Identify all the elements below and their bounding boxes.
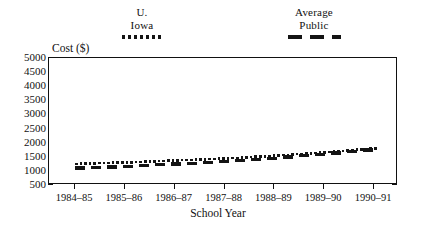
data-point-average-public — [235, 159, 245, 162]
x-axis-tick — [323, 184, 324, 189]
data-point-average-public — [91, 166, 101, 169]
y-axis-tick-labels: 500045004000350030002500200015001000500 — [4, 50, 46, 191]
y-axis-tick-label: 4000 — [24, 80, 46, 91]
data-point-u-iowa — [112, 161, 115, 164]
data-point-u-iowa — [153, 160, 156, 163]
y-axis-tick-label: 1500 — [24, 151, 46, 162]
x-axis-tick — [124, 184, 125, 189]
x-axis-tick-label: 1990–91 — [345, 192, 401, 203]
data-point-u-iowa — [323, 151, 326, 154]
legend-swatch-dashed-line — [266, 34, 362, 41]
data-point-u-iowa — [231, 157, 234, 160]
data-point-u-iowa — [181, 159, 184, 162]
legend-label-average-public-line2: Public — [266, 19, 362, 32]
x-axis-tick — [373, 184, 374, 189]
data-point-u-iowa — [126, 161, 129, 164]
x-axis-tick — [273, 184, 274, 189]
data-point-average-public — [363, 148, 373, 151]
chart-legend: U. Iowa Average Public — [0, 0, 436, 48]
x-axis-tick-labels: 1984–851985–861986–871987–881988–891989–… — [0, 192, 436, 206]
x-axis-tick-label: 1988–89 — [245, 192, 301, 203]
y-axis-title: Cost ($) — [52, 42, 89, 54]
series-u-iowa — [49, 58, 396, 183]
legend-item-average-public: Average Public — [266, 6, 362, 41]
data-point-u-iowa — [291, 153, 294, 156]
data-point-u-iowa — [351, 149, 354, 152]
data-point-u-iowa — [144, 160, 147, 163]
y-axis-tick-label: 2500 — [24, 123, 46, 134]
data-point-u-iowa — [305, 152, 308, 155]
series-average-public — [49, 58, 396, 183]
data-point-u-iowa — [121, 161, 124, 164]
data-point-u-iowa — [245, 156, 248, 159]
y-axis-tick-label: 3500 — [24, 94, 46, 105]
data-point-u-iowa — [89, 162, 92, 165]
data-point-average-public — [347, 150, 357, 153]
data-point-u-iowa — [273, 154, 276, 157]
data-point-average-public — [203, 161, 213, 164]
data-point-u-iowa — [190, 159, 193, 162]
y-axis-tick-label: 3000 — [24, 108, 46, 119]
data-point-u-iowa — [93, 162, 96, 165]
data-point-average-public — [171, 162, 181, 165]
data-point-u-iowa — [176, 159, 179, 162]
plot-area — [48, 57, 397, 184]
data-point-u-iowa — [356, 148, 359, 151]
legend-swatch-dotted-line — [96, 34, 188, 41]
data-point-u-iowa — [213, 158, 216, 161]
data-point-average-public — [299, 154, 309, 157]
data-point-u-iowa — [204, 158, 207, 161]
data-point-u-iowa — [98, 162, 101, 165]
data-point-average-public — [219, 160, 229, 163]
data-point-u-iowa — [314, 152, 317, 155]
data-point-average-public — [123, 165, 133, 168]
data-point-u-iowa — [116, 161, 119, 164]
data-point-u-iowa — [346, 149, 349, 152]
data-point-u-iowa — [227, 157, 230, 160]
data-point-u-iowa — [328, 151, 331, 154]
y-axis-tick-label: 5000 — [24, 52, 46, 63]
data-point-u-iowa — [333, 150, 336, 153]
data-point-average-public — [315, 153, 325, 156]
data-point-average-public — [187, 162, 197, 165]
data-point-u-iowa — [135, 161, 138, 164]
x-axis-ticks — [48, 184, 397, 190]
data-point-average-public — [267, 157, 277, 160]
data-point-u-iowa — [259, 155, 262, 158]
x-axis-tick — [174, 184, 175, 189]
data-point-u-iowa — [360, 148, 363, 151]
data-point-average-public — [75, 166, 85, 169]
data-point-u-iowa — [199, 158, 202, 161]
data-point-u-iowa — [103, 162, 106, 165]
data-point-u-iowa — [158, 160, 161, 163]
data-point-u-iowa — [107, 162, 110, 165]
y-axis-tick-label: 2000 — [24, 137, 46, 148]
data-point-u-iowa — [80, 162, 83, 165]
x-axis-tick-label: 1984–85 — [46, 192, 102, 203]
data-point-u-iowa — [172, 159, 175, 162]
data-point-u-iowa — [139, 161, 142, 164]
data-point-u-iowa — [241, 156, 244, 159]
data-point-u-iowa — [208, 158, 211, 161]
data-point-u-iowa — [254, 155, 257, 158]
legend-label-average-public-line1: Average — [266, 6, 362, 19]
data-point-u-iowa — [84, 162, 87, 165]
data-point-u-iowa — [365, 148, 368, 151]
data-point-u-iowa — [310, 152, 313, 155]
x-axis-tick — [74, 184, 75, 189]
data-point-u-iowa — [282, 154, 285, 157]
y-axis-tick-label: 500 — [30, 179, 47, 190]
data-point-u-iowa — [296, 153, 299, 156]
x-axis-tick-label: 1987–88 — [196, 192, 252, 203]
data-point-u-iowa — [250, 156, 253, 159]
x-axis-title: School Year — [0, 207, 436, 219]
chart-figure: U. Iowa Average Public Cost ($) School Y… — [0, 0, 436, 234]
data-point-average-public — [331, 151, 341, 154]
data-point-u-iowa — [277, 154, 280, 157]
data-point-u-iowa — [222, 157, 225, 160]
data-point-u-iowa — [300, 153, 303, 156]
data-point-u-iowa — [264, 155, 267, 158]
data-point-u-iowa — [369, 147, 372, 150]
data-point-u-iowa — [167, 159, 170, 162]
x-axis-tick-label: 1985–86 — [96, 192, 152, 203]
